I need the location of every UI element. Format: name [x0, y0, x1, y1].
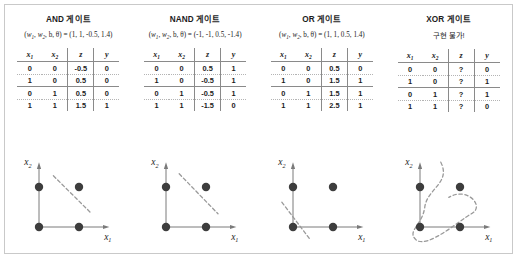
y-axis-label: x2	[404, 157, 412, 168]
cell-x2: 1	[169, 99, 195, 111]
data-point	[75, 223, 83, 231]
cell-y: 0	[221, 99, 247, 111]
data-point	[162, 223, 170, 231]
decision-boundary	[54, 176, 92, 213]
cell-y: 1	[474, 88, 500, 101]
decision-plot: x2x1	[136, 153, 254, 249]
cell-x1: 0	[144, 87, 169, 100]
cell-z: 0.5	[321, 62, 347, 75]
table-row: 11?0	[398, 100, 500, 112]
cell-x2: 1	[296, 99, 322, 111]
cell-x1: 0	[271, 62, 296, 75]
cell-x1: 1	[144, 74, 169, 87]
gate-panel-nand: NAND 게이트(w1, w2, b, θ) = (-1, -1, 0.5, -…	[132, 5, 259, 253]
y-axis-label: x2	[24, 157, 32, 168]
cell-y: 1	[347, 99, 373, 111]
header-y: y	[347, 48, 373, 62]
plot-container: x2x1	[5, 153, 132, 249]
data-point	[415, 183, 423, 191]
cell-x1: 1	[144, 99, 169, 111]
header-x1: x1	[271, 48, 296, 62]
table-row: 101.51	[271, 74, 373, 87]
cell-z: 0.5	[68, 74, 94, 87]
y-axis-label: x2	[277, 157, 285, 168]
table-row: 00-0.50	[17, 62, 119, 75]
x-axis-arrow	[357, 225, 363, 229]
gate-panel-xor: XOR 게이트구현 불가!x1x2zy00?010?101?111?0x2x1	[385, 5, 512, 253]
cell-x1: 0	[398, 88, 423, 101]
cell-x1: 0	[271, 87, 296, 100]
gate-note: 구현 불가!	[433, 32, 465, 40]
cell-z: 0.5	[195, 62, 221, 75]
data-point	[202, 183, 210, 191]
table-row: 00?0	[398, 63, 500, 76]
cell-x2: 0	[42, 62, 68, 75]
cell-x1: 1	[398, 100, 423, 112]
data-point	[329, 223, 337, 231]
plot-container: x2x1	[132, 153, 259, 249]
header-y: y	[94, 48, 120, 62]
data-point	[455, 223, 463, 231]
cell-y: 0	[94, 87, 120, 100]
gate-parameters: (w1, w2, b, θ) = (1, 1, 0.5, 1.4)	[279, 32, 365, 39]
table-header-row: x1x2zy	[398, 49, 500, 63]
header-x1: x1	[17, 48, 42, 62]
cell-y: 1	[221, 62, 247, 75]
x-axis-label: x1	[357, 232, 365, 243]
gate-panels-container: AND 게이트(w1, w2, b, θ) = (1, 1, -0.5, 1.4…	[5, 5, 512, 253]
cell-y: 0	[94, 62, 120, 75]
cell-y: 0	[347, 62, 373, 75]
cell-y: 1	[347, 87, 373, 100]
table-row: 111.51	[17, 99, 119, 111]
header-z: z	[68, 48, 94, 62]
cell-x2: 0	[42, 74, 68, 87]
cell-x2: 1	[423, 88, 449, 101]
x-axis-label: x1	[230, 232, 238, 243]
cell-y: 1	[94, 99, 120, 111]
cell-y: 0	[474, 63, 500, 76]
cell-z: -1.5	[195, 99, 221, 111]
data-point	[415, 223, 423, 231]
gate-title: NAND 게이트	[170, 16, 221, 24]
data-point	[35, 223, 43, 231]
data-point	[75, 183, 83, 191]
truth-table: x1x2zy00-0.50100.50010.50111.51	[17, 48, 119, 111]
cell-x1: 0	[17, 62, 42, 75]
table-row: 010.50	[17, 87, 119, 100]
table-row: 000.51	[144, 62, 246, 75]
cell-x1: 0	[398, 63, 423, 76]
cell-y: 0	[474, 100, 500, 112]
header-x1: x1	[398, 49, 423, 63]
cell-y: 1	[347, 74, 373, 87]
cell-x1: 1	[398, 75, 423, 88]
cell-x2: 0	[423, 63, 449, 76]
table-row: 112.51	[271, 99, 373, 111]
cell-x2: 0	[169, 74, 195, 87]
y-axis-label: x2	[150, 157, 158, 168]
table-row: 10?1	[398, 75, 500, 88]
header-y: y	[221, 48, 247, 62]
gate-title: AND 게이트	[46, 16, 91, 24]
cell-y: 1	[474, 75, 500, 88]
header-z: z	[448, 49, 474, 63]
figure-card: AND 게이트(w1, w2, b, θ) = (1, 1, -0.5, 1.4…	[4, 4, 513, 254]
y-axis-arrow	[291, 162, 295, 169]
data-point	[329, 183, 337, 191]
cell-z: 2.5	[321, 99, 347, 111]
header-x2: x2	[296, 48, 322, 62]
y-axis-arrow	[37, 162, 41, 169]
table-row: 11-1.50	[144, 99, 246, 111]
cell-x1: 1	[271, 74, 296, 87]
cell-x1: 1	[271, 99, 296, 111]
x-axis-arrow	[230, 225, 236, 229]
x-axis-label: x1	[104, 232, 112, 243]
table-row: 011.51	[271, 87, 373, 100]
decision-boundary	[179, 174, 218, 214]
cell-y: 1	[221, 74, 247, 87]
cell-z: -0.5	[195, 74, 221, 87]
truth-table: x1x2zy000.50101.51011.51112.51	[271, 48, 373, 111]
data-point	[289, 183, 297, 191]
table-row: 100.50	[17, 74, 119, 87]
plot-container: x2x1	[385, 153, 512, 249]
cell-z: -0.5	[195, 87, 221, 100]
